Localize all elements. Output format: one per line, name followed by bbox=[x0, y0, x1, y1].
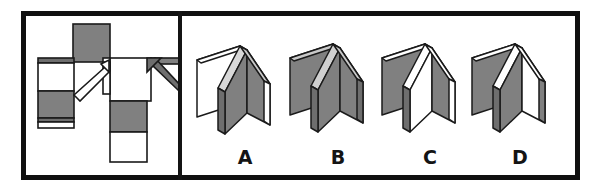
net-bottom-lower-square bbox=[110, 132, 147, 162]
option-c-shape[interactable] bbox=[382, 44, 455, 132]
option-b-right-edge bbox=[357, 79, 363, 123]
option-b-center-edge bbox=[311, 86, 318, 132]
option-label-b[interactable]: B bbox=[318, 148, 358, 167]
option-c-right-edge bbox=[449, 79, 455, 123]
option-d-center-edge bbox=[493, 86, 500, 132]
option-a-right-edge bbox=[264, 81, 270, 125]
net-bottom-upper-square bbox=[110, 101, 147, 132]
option-a-shape[interactable] bbox=[197, 46, 270, 134]
figure-root: A flattened net of folded card panels on… bbox=[0, 0, 595, 194]
option-label-c[interactable]: C bbox=[410, 148, 450, 167]
net-left-bottom-tab bbox=[38, 122, 74, 128]
figure-description: A flattened net of folded card panels on… bbox=[0, 0, 1, 1]
net-top-square bbox=[73, 24, 110, 62]
net-center-square bbox=[110, 58, 151, 101]
net-svg bbox=[21, 0, 178, 194]
unfolded-net-diagram bbox=[21, 0, 178, 194]
net-left-upper-square bbox=[38, 63, 74, 91]
option-d-right-edge bbox=[539, 79, 545, 123]
option-label-d[interactable]: D bbox=[500, 148, 540, 167]
net-left-lower-square bbox=[38, 91, 74, 118]
option-label-a[interactable]: A bbox=[225, 148, 265, 167]
option-c-center-edge bbox=[403, 86, 410, 132]
option-b-shape[interactable] bbox=[290, 44, 363, 132]
option-a-center-edge bbox=[218, 88, 225, 134]
option-d-shape[interactable] bbox=[472, 44, 545, 132]
